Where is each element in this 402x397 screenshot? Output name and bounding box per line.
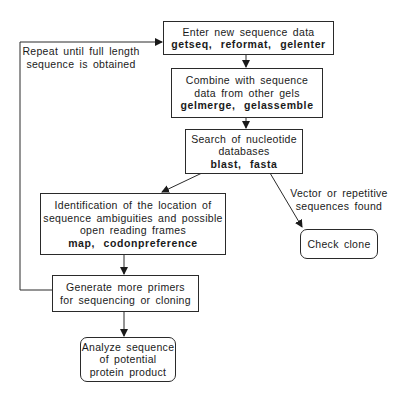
node-text: for sequencing or cloning [60,294,191,307]
node-analyze-protein: Analyze sequence of potential protein pr… [80,337,176,382]
node-text: Search of nucleotide [191,133,297,146]
node-text: of potential [100,353,157,366]
node-commands: map, codonpreference [68,237,198,250]
node-text: Enter new sequence data [183,26,315,39]
node-text: Generate more primers [66,281,185,294]
node-enter-sequence: Enter new sequence data getseq, reformat… [163,21,334,55]
node-text: Identification of the location of [55,199,212,212]
label-line: sequences found [285,200,393,213]
node-commands: getseq, reformat, gelenter [171,38,326,51]
label-line: sequence is obtained [22,58,140,71]
node-text: Analyze sequence [82,341,175,354]
node-text: databases [218,145,269,158]
node-text: protein product [90,366,167,379]
node-commands: blast, fasta [210,158,277,171]
node-text: Combine with sequence [186,74,308,87]
label-line: Vector or repetitive [285,187,393,200]
node-text: sequence ambiguities and possible [43,212,222,225]
edge-label-repeat: Repeat until full length sequence is obt… [22,45,140,70]
node-check-clone: Check clone [300,229,378,259]
node-text: open reading frames [80,224,186,237]
node-commands: gelmerge, gelassemble [180,99,313,112]
node-text: data from other gels [194,87,299,100]
node-generate-primers: Generate more primers for sequencing or … [52,275,199,312]
node-search-databases: Search of nucleotide databases blast, fa… [185,129,303,174]
edge-label-vector: Vector or repetitive sequences found [285,187,393,212]
node-identify-orfs: Identification of the location of sequen… [40,193,226,255]
node-combine-gels: Combine with sequence data from other ge… [171,68,323,118]
label-line: Repeat until full length [22,45,140,58]
node-text: Check clone [307,238,370,251]
